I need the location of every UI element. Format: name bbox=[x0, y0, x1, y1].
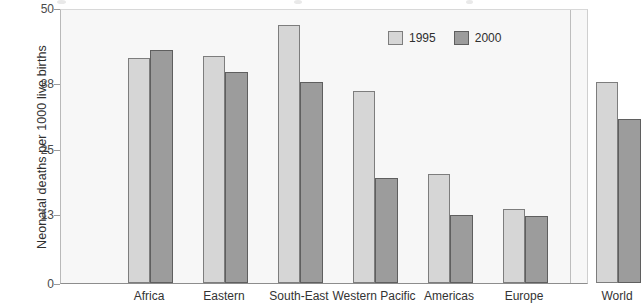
x-axis-label-western-pacific: Western Pacific bbox=[332, 289, 415, 303]
cropped-title-remnant bbox=[57, 0, 66, 4]
bar-eastern-1995 bbox=[203, 56, 226, 283]
bar-africa-2000 bbox=[150, 50, 173, 283]
y-tick-label-50: 50 bbox=[28, 3, 54, 15]
legend-label-2000: 2000 bbox=[475, 31, 502, 45]
legend-swatch-2000-icon bbox=[454, 31, 469, 45]
x-axis-label-world: World bbox=[601, 289, 632, 303]
bar-western-pacific-1995 bbox=[353, 91, 376, 283]
bar-africa-1995 bbox=[128, 58, 151, 283]
bar-americas-2000 bbox=[450, 215, 473, 283]
bar-americas-1995 bbox=[428, 174, 451, 283]
y-tick-label-0: 0 bbox=[28, 278, 54, 290]
legend-item-2000: 2000 bbox=[454, 31, 502, 45]
plot-area bbox=[60, 9, 588, 284]
y-tick-label-13: 13 bbox=[28, 209, 54, 221]
bar-western-pacific-2000 bbox=[375, 178, 398, 283]
world-group-separator bbox=[570, 10, 571, 283]
legend-item-1995: 1995 bbox=[388, 31, 436, 45]
x-axis-label-americas: Americas bbox=[424, 289, 474, 303]
y-tick-mark bbox=[54, 284, 60, 285]
bar-world-1995 bbox=[596, 82, 619, 283]
legend-swatch-1995-icon bbox=[388, 31, 403, 45]
bar-south-east-2000 bbox=[300, 82, 323, 283]
bar-eastern-2000 bbox=[225, 72, 248, 283]
bar-europe-2000 bbox=[525, 216, 548, 283]
cropped-title-remnant bbox=[466, 0, 473, 4]
bar-europe-1995 bbox=[503, 209, 526, 283]
x-axis-label-africa: Africa bbox=[134, 289, 165, 303]
legend: 1995 2000 bbox=[388, 31, 501, 45]
x-axis-label-eastern: Eastern bbox=[203, 289, 244, 303]
x-axis-label-europe: Europe bbox=[505, 289, 544, 303]
bar-south-east-1995 bbox=[278, 25, 301, 283]
legend-label-1995: 1995 bbox=[409, 31, 436, 45]
bar-world-2000 bbox=[618, 119, 641, 283]
y-axis-tick-labels: 50 38 25 13 0 bbox=[26, 0, 54, 305]
x-axis-label-south-east: South-East bbox=[269, 289, 328, 303]
y-tick-label-25: 25 bbox=[28, 144, 54, 156]
y-tick-label-38: 38 bbox=[28, 78, 54, 90]
cropped-title-remnant bbox=[294, 0, 302, 4]
